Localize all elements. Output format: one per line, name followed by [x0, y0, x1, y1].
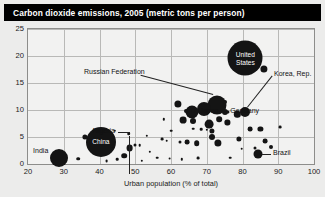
y-axis-tick-label: 10 [2, 106, 24, 114]
data-point-bubble[interactable] [214, 139, 221, 146]
data-point-bubble[interactable] [138, 144, 141, 147]
gridline-vertical [171, 29, 172, 164]
data-point-bubble[interactable] [175, 100, 182, 107]
data-point-bubble[interactable] [112, 145, 115, 148]
x-axis-tick-label: 50 [123, 167, 147, 176]
data-point-bubble[interactable] [181, 158, 183, 160]
data-point-bubble[interactable] [148, 150, 150, 152]
figure-container: Carbon dioxide emissions, 2005 (metric t… [0, 0, 325, 197]
gridline-vertical [278, 29, 279, 164]
data-point-bubble[interactable] [168, 157, 171, 160]
data-point-bubble[interactable] [161, 138, 164, 141]
data-point-bubble[interactable] [240, 148, 243, 151]
annotation-russian-federation: Russian Federation [84, 68, 145, 76]
data-point-bubble[interactable] [210, 128, 215, 133]
data-point-bubble[interactable] [191, 109, 195, 113]
data-point-bubble[interactable] [269, 145, 273, 149]
data-point-bubble[interactable] [225, 120, 230, 125]
data-point-bubble[interactable] [50, 149, 68, 167]
data-point-bubble[interactable] [260, 65, 267, 72]
gridline-vertical [64, 29, 65, 164]
data-point-bubble[interactable] [190, 118, 196, 124]
y-axis-tick-label: 20 [2, 52, 24, 60]
data-point-bubble[interactable] [209, 134, 215, 140]
data-point-bubble[interactable] [223, 100, 227, 104]
data-point-bubble[interactable] [76, 157, 80, 161]
plot-area: UnitedStatesChinaIndiaJapanGermanyRussia… [27, 28, 315, 165]
data-point-bubble[interactable] [179, 141, 182, 144]
data-point-bubble[interactable] [194, 141, 200, 147]
data-point-bubble[interactable] [200, 128, 203, 131]
y-axis-tick-label: 5 [2, 133, 24, 141]
leader-russian-federation [141, 75, 213, 95]
data-point-bubble[interactable] [229, 156, 232, 159]
data-point-bubble[interactable] [105, 159, 108, 162]
data-point-bubble[interactable] [227, 111, 230, 114]
annotation-germany: Germany [230, 107, 259, 115]
annotation-china: China [92, 138, 109, 145]
data-point-bubble[interactable] [180, 117, 187, 124]
annotation-korea-rep: Korea, Rep. [274, 70, 311, 78]
annotation-united-states: UnitedStates [236, 51, 255, 66]
leader-nigeria-horizontal [118, 132, 130, 133]
data-point-bubble[interactable] [248, 127, 253, 132]
data-point-bubble[interactable] [216, 116, 222, 122]
leader-korea-rep [247, 76, 272, 108]
data-point-bubble[interactable] [121, 153, 127, 159]
x-axis-title: Urban population (% of total) [27, 179, 315, 188]
data-point-bubble[interactable] [140, 160, 142, 162]
x-axis-tick-label: 90 [266, 167, 290, 176]
y-axis: 0510152025 [0, 28, 24, 165]
x-axis-tick-label: 60 [159, 167, 183, 176]
annotation-japan: Japan [199, 107, 218, 115]
data-point-bubble[interactable] [192, 128, 195, 131]
annotation-brazil: Brazil [273, 149, 291, 157]
data-point-bubble[interactable] [134, 143, 137, 146]
data-point-bubble[interactable] [156, 156, 159, 159]
data-point-bubble[interactable] [254, 146, 257, 149]
data-point-bubble[interactable] [163, 118, 165, 120]
data-point-bubble[interactable] [236, 137, 241, 142]
chart-title-bar: Carbon dioxide emissions, 2005 (metric t… [4, 4, 321, 21]
x-axis-tick-label: 70 [195, 167, 219, 176]
x-axis-tick-label: 20 [16, 167, 40, 176]
y-axis-tick-label: 25 [2, 25, 24, 33]
data-point-bubble[interactable] [279, 126, 282, 129]
x-axis-tick-label: 40 [88, 167, 112, 176]
y-axis-tick-label: 15 [2, 79, 24, 87]
data-point-bubble[interactable] [258, 126, 263, 131]
gridline-vertical [207, 29, 208, 164]
data-point-bubble[interactable] [185, 139, 190, 144]
data-point-bubble[interactable] [253, 150, 262, 159]
x-axis-tick-label: 100 [302, 167, 325, 176]
x-axis: 2030405060708090100 [27, 167, 315, 179]
annotation-india: India [33, 147, 48, 155]
data-point-bubble[interactable] [197, 157, 200, 160]
annotation-nigeria: Nigeria [93, 127, 115, 135]
x-axis-tick-label: 80 [231, 167, 255, 176]
data-point-bubble[interactable] [165, 139, 168, 142]
data-point-bubble[interactable] [116, 158, 119, 161]
data-point-bubble[interactable] [170, 129, 173, 132]
data-point-bubble[interactable] [263, 139, 268, 144]
leader-brazil [262, 154, 271, 155]
page-title: Carbon dioxide emissions, 2005 (metric t… [13, 8, 245, 18]
data-point-bubble[interactable] [184, 109, 188, 113]
x-axis-tick-label: 30 [52, 167, 76, 176]
